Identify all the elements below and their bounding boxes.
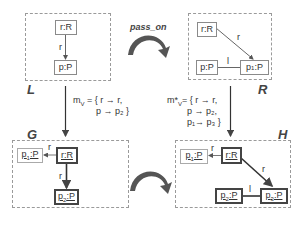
node-H-p2P: p2:P bbox=[215, 188, 243, 204]
node-label: r:R bbox=[201, 25, 213, 34]
edge-label-l: l bbox=[249, 185, 251, 194]
curved-arrow-icon bbox=[130, 172, 172, 194]
edge-label-r: r bbox=[262, 165, 265, 174]
node-type: :P bbox=[194, 150, 203, 160]
node-R-p1P: p1:P bbox=[240, 60, 269, 75]
node-H-rR: r:R bbox=[221, 147, 242, 164]
match-line: = { r → r, bbox=[182, 95, 217, 105]
transformation-label: pass_on bbox=[130, 22, 167, 32]
node-L-rR: r:R bbox=[55, 20, 77, 35]
match-name: m* bbox=[167, 95, 178, 105]
node-type: :P bbox=[229, 190, 238, 200]
panel-label-R: R bbox=[258, 83, 267, 96]
match-subscript: V bbox=[81, 101, 85, 107]
node-H-p3P: p3:P bbox=[260, 188, 288, 204]
match-right-line3: p₁→ p₃ } bbox=[187, 117, 221, 128]
node-label: r:R bbox=[226, 151, 238, 160]
edge-label-r: r bbox=[48, 143, 51, 152]
node-label: p:P bbox=[200, 63, 214, 72]
match-line: = { r → r, bbox=[87, 95, 122, 105]
node-L-pP: p:P bbox=[54, 60, 77, 75]
node-type: :P bbox=[66, 191, 75, 201]
panel-label-L: L bbox=[27, 83, 35, 96]
node-G-p1P: p1:P bbox=[17, 148, 43, 163]
node-type: :P bbox=[254, 63, 263, 72]
match-name: m bbox=[73, 95, 81, 105]
match-left-line2: p → p₂ } bbox=[96, 106, 129, 117]
edge-label-r: r bbox=[59, 43, 62, 52]
edge-label-r: r bbox=[59, 172, 62, 181]
node-R-pP: p:P bbox=[196, 60, 218, 75]
node-label: r:R bbox=[60, 23, 72, 32]
node-R-rR: r:R bbox=[197, 22, 217, 37]
node-H-p1P: p1:P bbox=[180, 149, 208, 164]
edge-label-r: r bbox=[211, 144, 214, 153]
node-G-rR: r:R bbox=[56, 147, 78, 164]
node-label: r:R bbox=[61, 151, 73, 160]
node-G-p2P: p2:P bbox=[54, 189, 79, 205]
edge-label-r: r bbox=[237, 33, 240, 42]
node-label: p:P bbox=[59, 63, 73, 72]
match-right-line2: p → p₂, bbox=[187, 106, 217, 117]
node-type: :P bbox=[274, 190, 283, 200]
edge-label-l: l bbox=[227, 57, 229, 66]
node-type: :P bbox=[30, 149, 39, 159]
curved-arrow-icon bbox=[128, 36, 170, 58]
